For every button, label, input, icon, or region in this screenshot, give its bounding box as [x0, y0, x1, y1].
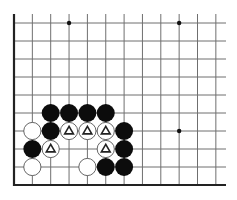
white-stone: [97, 122, 114, 139]
black-stone-disc: [115, 122, 133, 140]
black-stone: [97, 158, 115, 176]
hoshi-point: [177, 21, 181, 25]
white-stone: [24, 158, 41, 175]
black-stone-disc: [97, 158, 115, 176]
hoshi-point: [177, 129, 181, 133]
go-board-diagram: [0, 0, 237, 200]
white-stone: [60, 122, 77, 139]
black-stone-disc: [42, 104, 60, 122]
black-stone: [115, 140, 133, 158]
black-stone-disc: [97, 104, 115, 122]
hoshi-point: [67, 21, 71, 25]
black-stone: [78, 104, 96, 122]
white-stone-disc: [24, 158, 41, 175]
white-stone: [42, 140, 59, 157]
white-stone: [24, 122, 41, 139]
black-stone-disc: [42, 122, 60, 140]
stones-layer: [23, 104, 133, 176]
black-stone: [42, 122, 60, 140]
white-stone-disc: [24, 122, 41, 139]
white-stone: [79, 158, 96, 175]
white-stone: [97, 140, 114, 157]
black-stone-disc: [115, 158, 133, 176]
black-stone: [115, 158, 133, 176]
white-stone-disc: [79, 158, 96, 175]
black-stone-disc: [60, 104, 78, 122]
black-stone: [97, 104, 115, 122]
black-stone-disc: [78, 104, 96, 122]
black-stone: [115, 122, 133, 140]
go-board: [0, 0, 237, 200]
white-stone: [79, 122, 96, 139]
black-stone: [60, 104, 78, 122]
black-stone: [42, 104, 60, 122]
black-stone-disc: [115, 140, 133, 158]
black-stone-disc: [23, 140, 41, 158]
black-stone: [23, 140, 41, 158]
